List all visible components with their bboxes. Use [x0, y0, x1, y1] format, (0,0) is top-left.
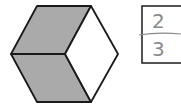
diagram-canvas: 2 3	[0, 0, 181, 107]
fraction-numerator: 2	[152, 9, 165, 33]
answer-box: 2 3	[139, 6, 181, 63]
hexagon-figure	[11, 6, 118, 102]
fraction-denominator: 3	[152, 37, 165, 61]
